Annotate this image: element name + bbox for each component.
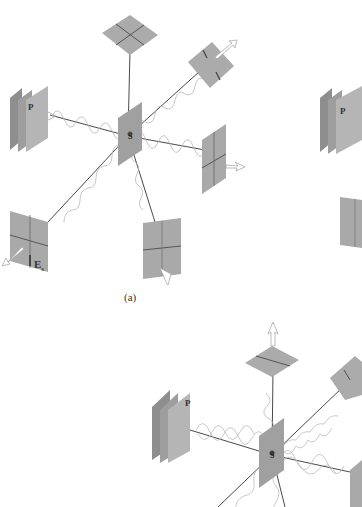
polarizer-plate-top — [102, 15, 158, 55]
caption-a: (a) — [124, 291, 136, 303]
source-plate: S — [118, 102, 142, 166]
panel-b-partial: P — [320, 86, 362, 248]
source-label: S — [128, 132, 133, 141]
source-plate-c: S — [259, 418, 284, 488]
polarizer-plate-upper-right — [188, 40, 237, 88]
polarizer-plate-bottom — [143, 218, 181, 285]
diagram-canvas: P S — [0, 0, 362, 507]
polarizer-stack-left-c: P — [152, 390, 191, 463]
polarizer-plate-right — [202, 124, 245, 194]
polarizer-label-b: P — [340, 106, 346, 116]
panel-c: P S — [152, 322, 362, 507]
source-label-c: S — [270, 451, 275, 460]
field-label-e-sub: s — [41, 265, 44, 273]
polarizer-plate-top-c — [245, 322, 299, 377]
polarizer-plate-upper-right-c — [330, 356, 362, 400]
polarizer-plate-right-c — [350, 460, 362, 507]
polarizer-label: P — [28, 102, 34, 112]
field-label-e: Es — [34, 258, 44, 273]
polarizer-stack-left: P — [10, 86, 56, 152]
panel-a: P S — [2, 15, 245, 285]
polarizer-label-c: P — [185, 398, 191, 408]
